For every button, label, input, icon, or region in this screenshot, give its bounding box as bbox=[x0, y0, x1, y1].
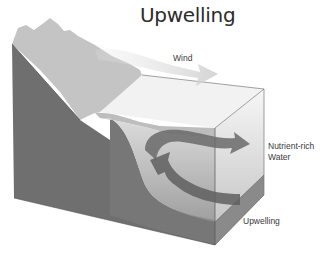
upwelling-diagram: Upwelling Wind Nutrient-rich Water Upwel… bbox=[0, 0, 328, 259]
wind-label: Wind bbox=[173, 53, 192, 64]
water-label: Water bbox=[268, 152, 290, 163]
upwelling-label: Upwelling bbox=[243, 216, 280, 227]
nutrient-rich-label: Nutrient-rich bbox=[268, 141, 314, 152]
diagram-title: Upwelling bbox=[140, 3, 230, 27]
